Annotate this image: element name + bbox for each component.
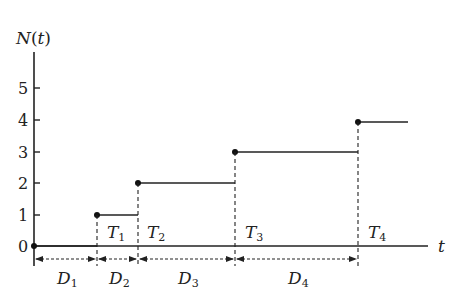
interval-label-t2: T2	[147, 222, 165, 244]
y-tick-label-5: 5	[18, 79, 28, 98]
y-axis-title: N(t)	[15, 28, 51, 48]
y-tick-label-1: 1	[18, 206, 28, 225]
y-tick-label-2: 2	[18, 174, 28, 193]
y-ticks	[34, 88, 40, 215]
interval-label-d1: D1	[56, 268, 78, 290]
step-function	[34, 122, 408, 246]
interval-label-d2: D2	[108, 268, 130, 290]
interval-label-t1: T1	[107, 222, 125, 244]
interval-label-d4: D4	[287, 268, 309, 290]
dashed-guides	[97, 122, 358, 266]
interval-label-d3: D3	[177, 268, 199, 290]
x-axis-title: t	[438, 236, 445, 256]
interval-label-t4: T4	[368, 222, 386, 244]
jump-points	[31, 119, 361, 249]
y-tick-label-4: 4	[18, 111, 28, 130]
y-tick-label-0: 0	[18, 237, 28, 256]
counting-process-diagram: 0 1 2 3 4 5 N(t) t D1 D2 D3	[0, 0, 470, 306]
y-tick-label-3: 3	[18, 143, 28, 162]
interval-label-t3: T3	[245, 222, 263, 244]
